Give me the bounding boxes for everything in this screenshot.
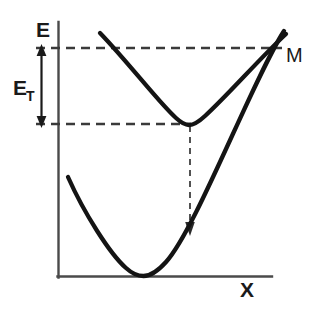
transition-energy-arrowhead-up	[37, 44, 47, 56]
transition-energy-label: E	[13, 76, 27, 99]
transition-energy-arrow	[37, 44, 47, 128]
crossing-point-label: M	[286, 44, 303, 66]
transition-energy-arrowhead-down	[37, 116, 47, 128]
x-axis-label: X	[240, 278, 254, 301]
transition-energy-label-subscript: T	[26, 88, 35, 104]
diagram-canvas: E E T M X	[0, 0, 313, 311]
axes-group	[58, 22, 273, 278]
y-axis-label: E	[36, 18, 50, 41]
energy-configuration-diagram: E E T M X	[0, 0, 313, 311]
